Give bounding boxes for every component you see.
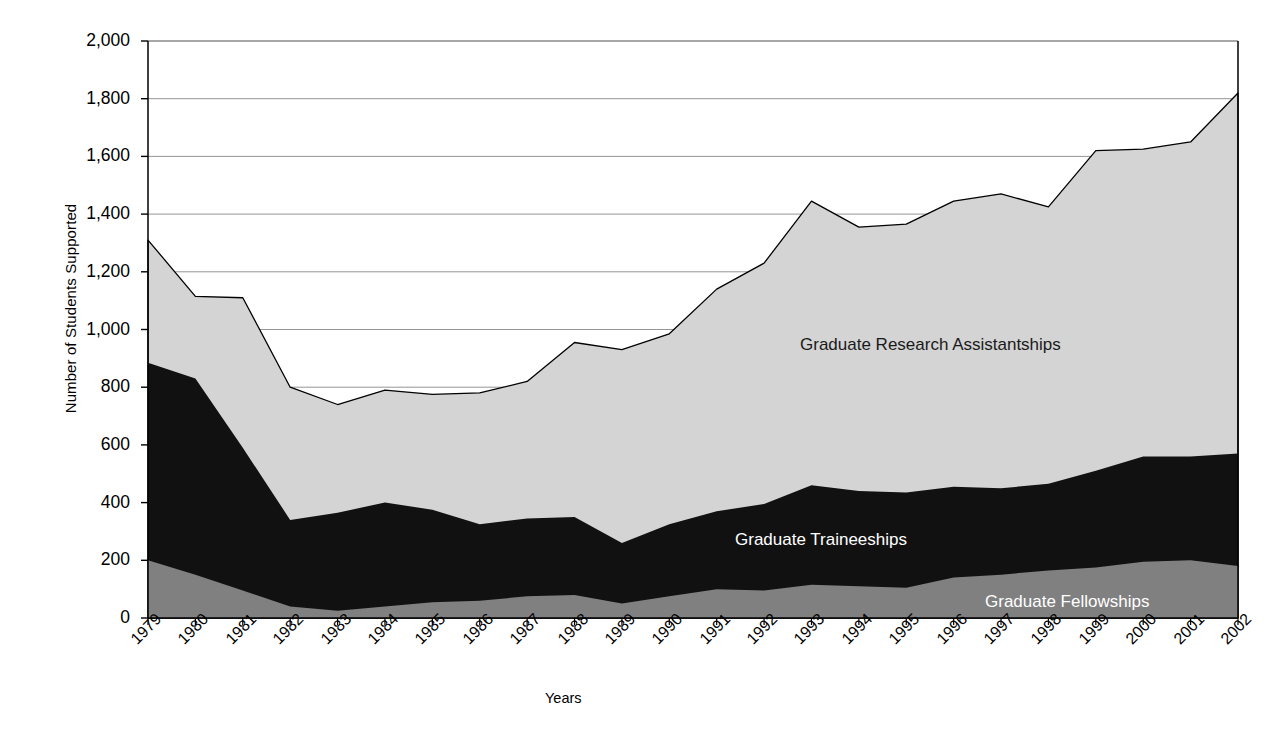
y-tick-label: 600 <box>60 434 130 455</box>
series-label: Graduate Traineeships <box>735 530 907 550</box>
area-chart: Number of Students Supported Years 02004… <box>0 0 1274 729</box>
y-tick-label: 1,200 <box>60 261 130 282</box>
y-tick-label: 1,400 <box>60 203 130 224</box>
y-tick-label: 400 <box>60 492 130 513</box>
series-label: Graduate Research Assistantships <box>800 335 1061 355</box>
stacked-areas <box>148 93 1238 618</box>
y-tick-label: 0 <box>60 607 130 628</box>
y-tick-label: 200 <box>60 549 130 570</box>
y-tick-label: 800 <box>60 376 130 397</box>
y-tick-label: 2,000 <box>60 30 130 51</box>
y-tick-label: 1,800 <box>60 88 130 109</box>
y-tick-label: 1,000 <box>60 319 130 340</box>
y-tick-label: 1,600 <box>60 145 130 166</box>
series-label: Graduate Fellowships <box>985 592 1149 612</box>
